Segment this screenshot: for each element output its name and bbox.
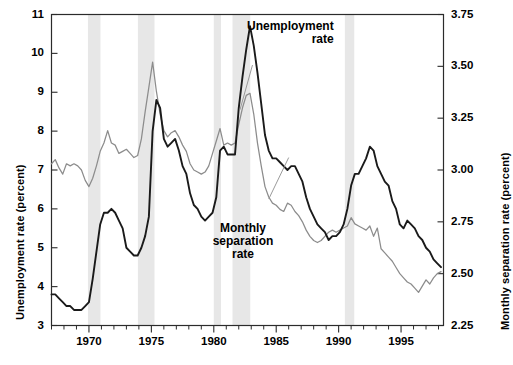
unemployment-rate-label: Unemploymentrate [247, 20, 334, 46]
chart-figure: Unemployment rate (percent) Monthly sepa… [0, 0, 513, 365]
recession-bands [88, 15, 354, 326]
separation-rate-label: Monthlyseparationrate [200, 222, 286, 261]
separation-label-leader [269, 158, 289, 199]
plot-area [0, 0, 513, 365]
recession-band [345, 15, 354, 326]
recession-band [138, 15, 155, 326]
recession-band [214, 15, 221, 326]
recession-band [233, 15, 251, 326]
recession-band [88, 15, 100, 326]
